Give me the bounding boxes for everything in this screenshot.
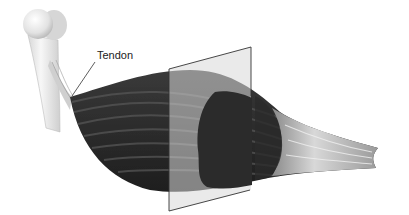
muscle-illustration <box>0 0 409 215</box>
cross-section-plane <box>169 47 252 211</box>
muscle-anatomy-figure: Tendon <box>0 0 409 215</box>
tendon-label: Tendon <box>97 50 133 61</box>
